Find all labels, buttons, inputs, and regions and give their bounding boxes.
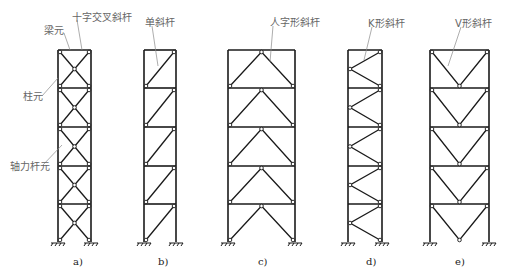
fixed-supports (137, 243, 183, 246)
leader-single-brace (152, 26, 158, 66)
label-column-element: 柱元 (23, 88, 43, 103)
single-diagonals (146, 52, 174, 240)
caption-d: d) (366, 256, 376, 267)
fixed-supports (341, 243, 389, 246)
leader-chevron-brace (270, 26, 273, 62)
label-axial-bar-element: 轴力杆元 (10, 158, 50, 173)
panel-c-chevron-braced-frame (221, 26, 302, 246)
leader-beam-element (64, 33, 70, 50)
fixed-supports (221, 243, 302, 246)
fixed-supports (423, 243, 496, 246)
panel-b-single-diagonal-frame (137, 26, 183, 246)
braced-frame-diagram (0, 0, 510, 277)
hinge-joints (348, 50, 382, 242)
k-braces (350, 52, 380, 240)
panel-e-v-braced-frame (423, 27, 496, 246)
label-v-brace: V形斜杆 (455, 15, 492, 30)
caption-e: e) (455, 256, 465, 267)
panel-d-k-braced-frame (341, 27, 389, 246)
fixed-supports (51, 243, 98, 246)
panel-a-cross-braced-frame (42, 20, 98, 246)
label-beam-element: 梁元 (44, 22, 64, 37)
hinge-joints (58, 50, 91, 242)
caption-c: c) (258, 256, 268, 267)
label-cross-brace: 十字交叉斜杆 (72, 9, 132, 24)
label-chevron-brace: 人字形斜杆 (270, 14, 320, 29)
caption-b: b) (158, 256, 168, 267)
leader-v-brace (448, 27, 461, 66)
chevron-braces (230, 52, 293, 240)
leader-column-element (42, 78, 58, 96)
leader-cross-brace (77, 20, 82, 50)
v-braces (432, 52, 487, 240)
label-k-brace: K形斜杆 (368, 15, 405, 30)
caption-a: a) (73, 256, 83, 267)
hinge-joints (228, 50, 295, 242)
hinge-joints (430, 50, 489, 242)
leader-k-brace (364, 27, 372, 60)
label-single-brace: 单斜杆 (145, 14, 175, 29)
